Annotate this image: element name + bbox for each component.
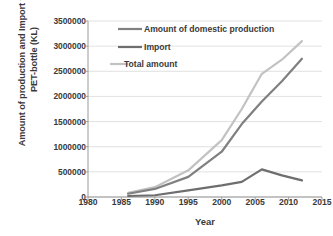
- legend-label: Amount of domestic production: [144, 24, 274, 34]
- plot-area: [0, 0, 333, 236]
- legend-label: Total amount: [124, 59, 177, 69]
- chart-container: Amount of production and Import for the …: [0, 0, 333, 236]
- x-axis-title: Year: [88, 216, 322, 227]
- series-line: [128, 169, 302, 196]
- legend-label: Import: [144, 42, 171, 52]
